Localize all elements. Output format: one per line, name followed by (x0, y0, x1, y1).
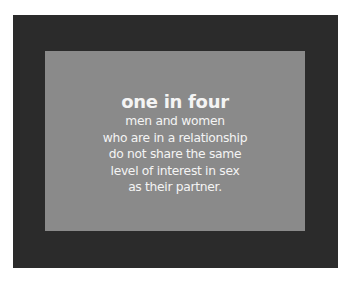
body-line: as their partner. (45, 179, 305, 196)
body-line: level of interest in sex (45, 163, 305, 180)
headline: one in four (45, 91, 305, 113)
body-line: do not share the same (45, 146, 305, 163)
statistic-card: one in four men and women who are in a r… (45, 51, 305, 231)
body-line: men and women (45, 113, 305, 130)
statistic-text: one in four men and women who are in a r… (45, 91, 305, 196)
body-line: who are in a relationship (45, 130, 305, 147)
